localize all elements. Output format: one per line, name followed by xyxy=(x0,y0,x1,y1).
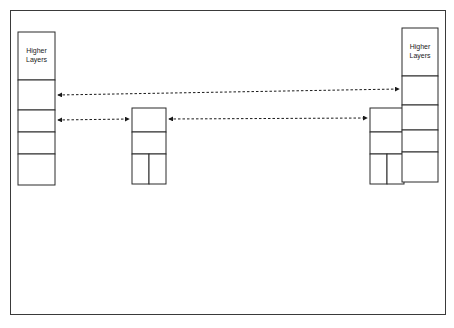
protocol-diagram: Higher Layers xyxy=(0,0,454,328)
end-system-b-stack: Higher Layers xyxy=(402,28,438,182)
es-a-mac-box xyxy=(18,154,55,185)
es-b-sip-box xyxy=(402,152,438,182)
router-1-llc-box xyxy=(132,132,166,154)
es-a-higher-label-1: Higher xyxy=(26,47,47,55)
router-1-sip-box xyxy=(149,154,166,184)
ip-arrow-left xyxy=(58,119,129,120)
router-2-mac-box xyxy=(387,154,404,184)
es-a-llc-box xyxy=(18,132,55,154)
es-a-higher-label-2: Layers xyxy=(26,56,48,64)
ip-arrow-mid xyxy=(169,118,367,119)
es-b-higher-label-2: Layers xyxy=(409,52,431,60)
end-system-a-stack: Higher Layers xyxy=(18,32,55,185)
router-2-sip-box xyxy=(370,154,387,184)
es-a-tcp-box xyxy=(18,80,55,110)
es-b-tcp-box xyxy=(402,76,438,105)
router-2-stack xyxy=(370,108,404,184)
es-b-ip-box xyxy=(402,105,438,130)
router-1-mac-box xyxy=(132,154,149,184)
es-b-higher-label-1: Higher xyxy=(410,43,431,51)
router-2-ip-box xyxy=(370,108,404,132)
router-2-llc-box xyxy=(370,132,404,154)
end-to-end-arrow xyxy=(58,89,399,95)
router-1-ip-box xyxy=(132,108,166,132)
router-1-stack xyxy=(132,108,166,184)
es-b-llc-box xyxy=(402,130,438,152)
es-a-ip-box xyxy=(18,110,55,132)
